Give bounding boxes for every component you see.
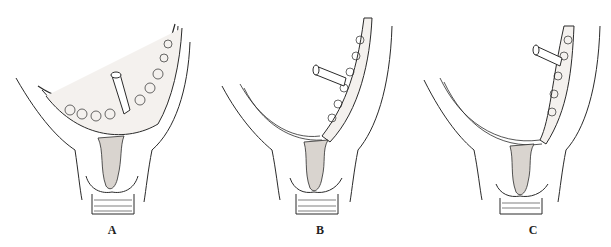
panel-b-drawing [200, 0, 410, 247]
panel-c-drawing [400, 0, 611, 247]
panel-a: A [0, 0, 210, 247]
panel-b: B [200, 0, 410, 247]
panel-label: B [316, 223, 324, 238]
panel-c: C [400, 0, 611, 247]
panel-label: C [529, 223, 538, 238]
panel-label: A [108, 223, 117, 238]
panel-a-drawing [0, 0, 210, 247]
